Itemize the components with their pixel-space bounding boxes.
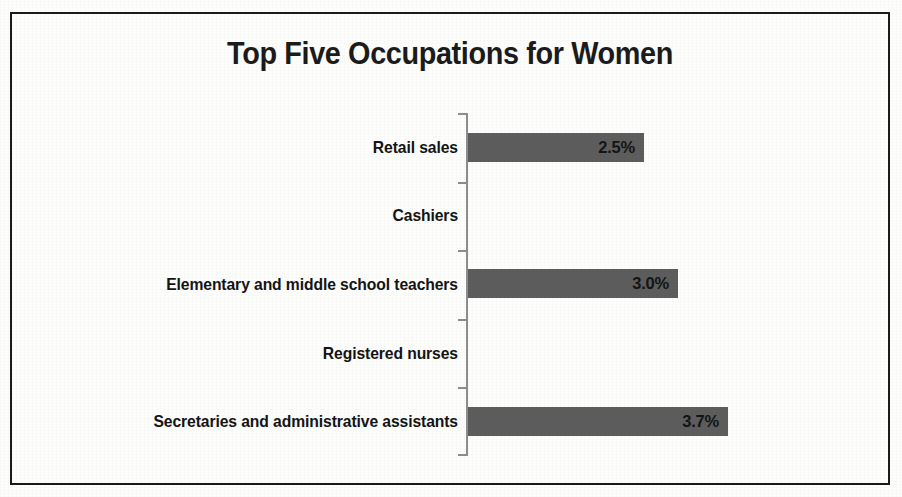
category-label: Cashiers [114, 206, 458, 225]
bar-rows: Retail sales 2.5% Cashiers 3.0% Elementa… [0, 113, 902, 456]
bar-row: Cashiers 3.0% [0, 181, 902, 250]
category-label: Retail sales [114, 138, 458, 157]
category-label: Registered nurses [114, 344, 458, 363]
bar-row: Secretaries and administrative assistant… [0, 387, 902, 456]
scanned-page: Top Five Occupations for Women Retail sa… [0, 0, 902, 497]
bar-value-label: 2.5% [598, 138, 635, 157]
category-label: Elementary and middle school teachers [114, 275, 458, 294]
bar-chart: Top Five Occupations for Women Retail sa… [0, 0, 902, 497]
bar-row: Elementary and middle school teachers 3.… [0, 250, 902, 319]
plot-area: Retail sales 2.5% Cashiers 3.0% Elementa… [0, 113, 902, 458]
category-label: Secretaries and administrative assistant… [114, 412, 458, 431]
bar: 2.5% [468, 133, 644, 162]
chart-title: Top Five Occupations for Women [106, 36, 794, 72]
bar-row: Registered nurses 3.8% [0, 319, 902, 388]
bar-row: Retail sales 2.5% [0, 113, 902, 182]
